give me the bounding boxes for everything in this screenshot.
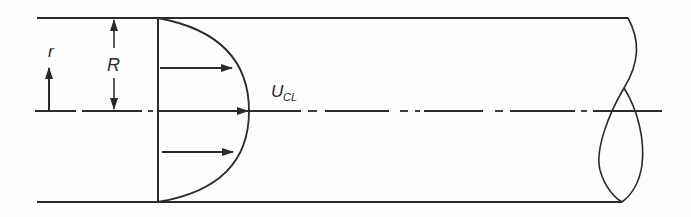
pipe-break-symbol [599,18,643,202]
velocity-arrows [160,68,248,152]
centerline-velocity-subscript: CL [283,91,297,103]
velocity-profile-parabola [158,18,249,202]
diagram-svg: R r U CL [0,0,691,217]
centerline-velocity-label: U CL [271,82,297,103]
radius-label: R [107,55,120,75]
radial-coordinate-label: r [48,42,55,61]
pipe-flow-diagram: R r U CL [0,0,691,217]
